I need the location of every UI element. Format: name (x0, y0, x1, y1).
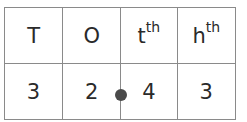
header-row: T O tth hth (5, 8, 236, 64)
header-tens: T (5, 8, 63, 64)
header-sup: th (146, 19, 160, 35)
value-tens: 3 (5, 64, 63, 120)
header-sup: th (206, 19, 220, 35)
value-hundredths: 3 (177, 64, 235, 120)
header-label: t (138, 24, 146, 48)
value-ones: 2 (63, 64, 121, 120)
header-label: O (83, 24, 100, 48)
header-label: h (192, 24, 205, 48)
value-tenths: 4 (121, 64, 177, 120)
header-tenths: tth (121, 8, 177, 64)
place-value-table: T O tth hth 3 2 4 3 (4, 7, 236, 120)
header-label: T (27, 24, 40, 48)
decimal-point-dot (115, 89, 127, 101)
header-hundredths: hth (177, 8, 235, 64)
header-ones: O (63, 8, 121, 64)
